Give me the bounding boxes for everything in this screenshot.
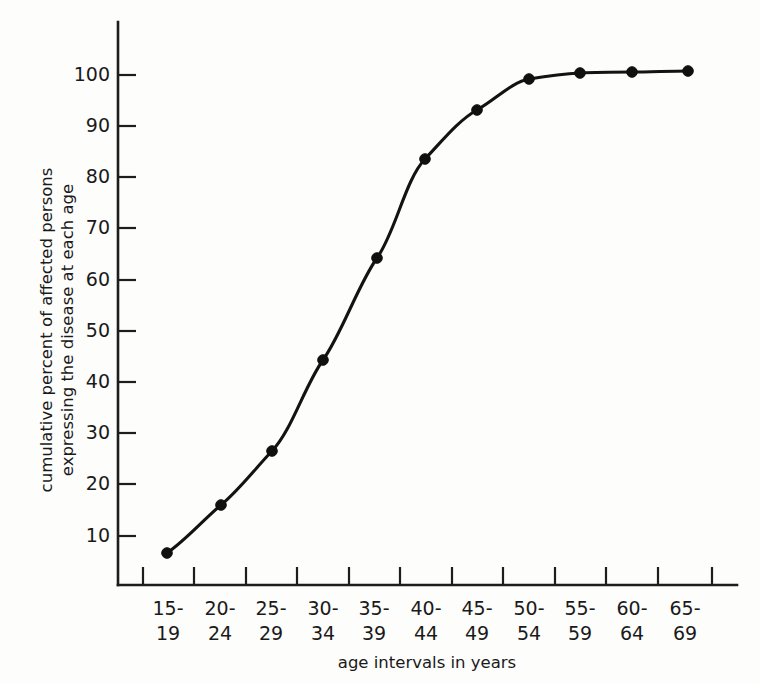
ytick-label-50: 50 — [86, 319, 110, 341]
xtick-label-65-69-bottom: 69 — [673, 622, 697, 644]
cumulative-percent-line-chart: 100 90 80 70 60 50 40 30 20 10 — [0, 0, 760, 684]
y-axis-title: cumulative percent of affected persons e… — [37, 168, 77, 493]
y-axis-title-line1: cumulative percent of affected persons — [37, 168, 56, 493]
xtick-label-45-49-bottom: 49 — [465, 622, 489, 644]
data-point-35-39 — [372, 253, 383, 264]
data-point-50-54 — [524, 74, 535, 85]
data-point-60-64 — [627, 67, 638, 78]
data-point-30-34 — [318, 355, 329, 366]
ytick-label-70: 70 — [86, 216, 110, 238]
xtick-label-35-39-bottom: 39 — [362, 622, 386, 644]
xtick-label-45-49-top: 45- — [461, 597, 492, 619]
data-point-65-69 — [683, 66, 694, 77]
ytick-label-10: 10 — [86, 524, 110, 546]
data-point-40-44 — [420, 154, 431, 165]
data-point-25-29 — [267, 446, 278, 457]
x-axis-ticks — [143, 567, 712, 585]
xtick-label-65-69-top: 65- — [669, 597, 700, 619]
xtick-label-60-64-top: 60- — [616, 597, 647, 619]
x-axis-title: age intervals in years — [338, 653, 516, 672]
ytick-label-30: 30 — [86, 421, 110, 443]
ytick-label-80: 80 — [86, 165, 110, 187]
xtick-label-20-24-top: 20- — [204, 597, 235, 619]
data-point-45-49 — [472, 105, 483, 116]
xtick-label-25-29-top: 25- — [255, 597, 286, 619]
y-axis-tick-labels: 100 90 80 70 60 50 40 30 20 10 — [74, 63, 110, 546]
xtick-label-15-19-bottom: 19 — [156, 622, 180, 644]
ytick-label-40: 40 — [86, 370, 110, 392]
xtick-label-30-34-top: 30- — [307, 597, 338, 619]
xtick-label-20-24-bottom: 24 — [208, 622, 232, 644]
xtick-label-55-59-bottom: 59 — [568, 622, 592, 644]
data-point-15-19 — [162, 548, 173, 559]
xtick-label-50-54-top: 50- — [513, 597, 544, 619]
y-axis-title-line2: expressing the disease at each age — [58, 184, 77, 476]
xtick-label-30-34-bottom: 34 — [311, 622, 335, 644]
xtick-label-15-19-top: 15- — [152, 597, 183, 619]
xtick-label-55-59-top: 55- — [564, 597, 595, 619]
x-axis-tick-labels: 15- 19 20- 24 25- 29 30- 34 35- 39 40- 4… — [152, 597, 700, 644]
xtick-label-40-44-top: 40- — [410, 597, 441, 619]
xtick-label-50-54-bottom: 54 — [517, 622, 541, 644]
chart-figure: 100 90 80 70 60 50 40 30 20 10 — [0, 0, 760, 684]
y-axis-ticks — [118, 75, 136, 536]
ytick-label-90: 90 — [86, 114, 110, 136]
xtick-label-35-39-top: 35- — [358, 597, 389, 619]
ytick-label-20: 20 — [86, 472, 110, 494]
xtick-label-60-64-bottom: 64 — [620, 622, 644, 644]
data-point-20-24 — [216, 500, 227, 511]
ytick-label-60: 60 — [86, 268, 110, 290]
xtick-label-40-44-bottom: 44 — [414, 622, 438, 644]
cumulative-percent-curve — [167, 71, 688, 553]
ytick-label-100: 100 — [74, 63, 110, 85]
xtick-label-25-29-bottom: 29 — [259, 622, 283, 644]
data-point-55-59 — [575, 68, 586, 79]
